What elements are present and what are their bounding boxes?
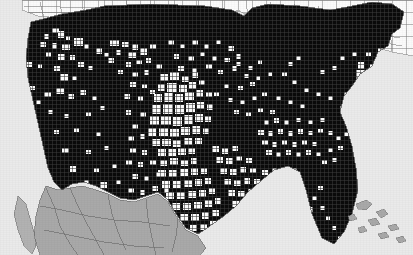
us-county-choropleth-map <box>0 0 413 255</box>
map-figure <box>0 0 413 255</box>
